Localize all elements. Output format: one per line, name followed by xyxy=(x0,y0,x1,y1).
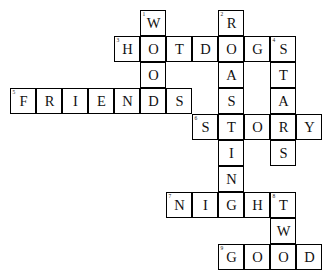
crossword-cell[interactable]: I xyxy=(62,88,88,114)
crossword-letter: D xyxy=(141,89,165,113)
clue-number: 4 xyxy=(273,37,276,43)
crossword-letter: W xyxy=(271,219,295,243)
clue-number: 5 xyxy=(13,89,16,95)
crossword-cell[interactable]: S xyxy=(166,88,192,114)
crossword-letter: I xyxy=(63,89,87,113)
crossword-letter: D xyxy=(193,37,217,61)
crossword-cell[interactable]: N xyxy=(218,166,244,192)
crossword-cell[interactable]: 5F xyxy=(10,88,36,114)
crossword-cell[interactable]: T xyxy=(270,62,296,88)
crossword-letter: H xyxy=(245,193,269,217)
crossword-letter: N xyxy=(115,89,139,113)
crossword-cell[interactable]: E xyxy=(88,88,114,114)
crossword-cell[interactable]: 8T xyxy=(270,192,296,218)
crossword-cell[interactable]: N xyxy=(114,88,140,114)
crossword-cell[interactable]: O xyxy=(244,244,270,270)
crossword-letter: O xyxy=(271,245,295,269)
crossword-cell[interactable]: 7N xyxy=(166,192,192,218)
crossword-letter: T xyxy=(167,37,191,61)
crossword-cell[interactable]: S xyxy=(270,140,296,166)
crossword-letter: O xyxy=(141,37,165,61)
crossword-letter: T xyxy=(271,63,295,87)
crossword-cell[interactable]: A xyxy=(270,88,296,114)
crossword-cell[interactable]: O xyxy=(270,244,296,270)
crossword-letter: E xyxy=(89,89,113,113)
clue-number: 8 xyxy=(273,193,276,199)
crossword-cell[interactable]: G xyxy=(218,192,244,218)
crossword-cell[interactable]: Y xyxy=(296,114,322,140)
crossword-letter: D xyxy=(297,245,321,269)
crossword-cell[interactable]: I xyxy=(192,192,218,218)
clue-number: 7 xyxy=(169,193,172,199)
crossword-cell[interactable]: T xyxy=(166,36,192,62)
crossword-letter: I xyxy=(219,141,243,165)
crossword-letter: O xyxy=(141,63,165,87)
crossword-cell[interactable]: I xyxy=(218,140,244,166)
crossword-cell[interactable]: R xyxy=(270,114,296,140)
clue-number: 3 xyxy=(117,37,120,43)
crossword-letter: I xyxy=(193,193,217,217)
crossword-cell[interactable]: 1W xyxy=(140,10,166,36)
crossword-cell[interactable]: O xyxy=(140,62,166,88)
crossword-letter: O xyxy=(245,245,269,269)
crossword-cell[interactable]: 3H xyxy=(114,36,140,62)
crossword-cell[interactable]: A xyxy=(218,62,244,88)
crossword-cell[interactable]: S xyxy=(218,88,244,114)
clue-number: 1 xyxy=(143,11,146,17)
crossword-letter: R xyxy=(37,89,61,113)
crossword-cell[interactable]: W xyxy=(270,218,296,244)
crossword-cell[interactable]: T xyxy=(218,114,244,140)
crossword-cell[interactable]: O xyxy=(244,114,270,140)
crossword-letter: O xyxy=(219,37,243,61)
crossword-letter: O xyxy=(245,115,269,139)
crossword-letter: A xyxy=(271,89,295,113)
crossword-cell[interactable]: R xyxy=(36,88,62,114)
crossword-cell[interactable]: H xyxy=(244,192,270,218)
crossword-cell[interactable]: 2R xyxy=(218,10,244,36)
crossword-letter: A xyxy=(219,63,243,87)
crossword-letter: G xyxy=(245,37,269,61)
crossword-cell[interactable]: D xyxy=(140,88,166,114)
crossword-letter: S xyxy=(271,141,295,165)
crossword-cell[interactable]: 6S xyxy=(192,114,218,140)
crossword-cell[interactable]: O xyxy=(218,36,244,62)
clue-number: 6 xyxy=(195,115,198,121)
crossword-letter: S xyxy=(167,89,191,113)
clue-number: 2 xyxy=(221,11,224,17)
crossword-letter: N xyxy=(219,167,243,191)
crossword-cell[interactable]: G xyxy=(244,36,270,62)
crossword-letter: Y xyxy=(297,115,321,139)
crossword-cell[interactable]: D xyxy=(296,244,322,270)
crossword-cell[interactable]: D xyxy=(192,36,218,62)
crossword-cell[interactable]: O xyxy=(140,36,166,62)
crossword-letter: R xyxy=(271,115,295,139)
crossword-cell[interactable]: 4S xyxy=(270,36,296,62)
crossword-letter: G xyxy=(219,193,243,217)
clue-number: 9 xyxy=(221,245,224,251)
crossword-cell[interactable]: 9G xyxy=(218,244,244,270)
crossword-letter: S xyxy=(219,89,243,113)
crossword-letter: T xyxy=(219,115,243,139)
